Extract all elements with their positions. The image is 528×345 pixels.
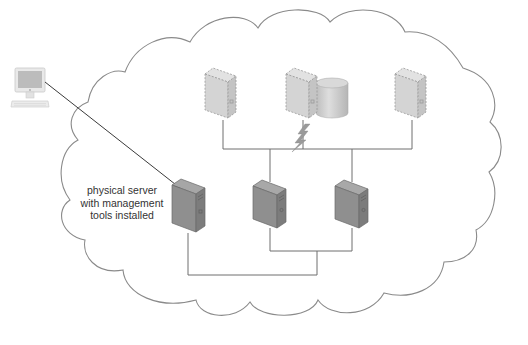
physical-bus-connector [188,228,352,275]
virtual-server-icon [286,68,317,118]
virtual-server-icon [395,68,426,118]
management-connection-arrow [45,82,180,188]
management-server-icon [172,179,205,232]
network-diagram [0,0,528,345]
management-server-annotation: physical server with management tools in… [72,184,172,222]
cloud-outline [61,10,501,315]
physical-server-icon [335,180,368,228]
physical-server-icon [253,180,286,228]
database-cylinder-icon [316,78,348,118]
lightning-bolt-icon [292,124,310,152]
annotation-line-1: physical server [72,184,172,197]
desktop-computer-icon [11,68,49,107]
virtual-bus-connector [223,120,412,182]
annotation-line-3: tools installed [72,209,172,222]
virtual-server-icon [205,68,236,118]
annotation-line-2: with management [72,197,172,210]
virtual-server-with-storage [286,68,348,118]
